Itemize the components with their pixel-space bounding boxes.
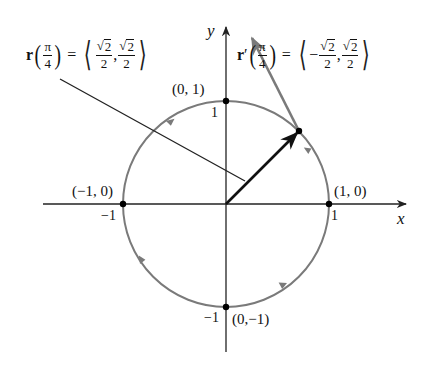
component-2: √2 2: [342, 39, 359, 70]
minus-sign: −: [309, 47, 318, 63]
paren-open: (: [249, 41, 256, 69]
point-north: [223, 98, 229, 104]
direction-arrow-icon: [304, 148, 312, 154]
position-vector-equation: r ( π 4 ) = ⟨ √2 2 , √2 2 ⟩: [26, 38, 149, 72]
point-east: [326, 201, 332, 207]
y-axis-label: y: [207, 22, 215, 39]
angle-bracket-close: ⟩: [139, 38, 147, 72]
y-tick-neg1: −1: [204, 311, 219, 325]
point-south: [223, 304, 229, 310]
leader-line: [60, 79, 245, 181]
function-r: r: [237, 47, 244, 63]
angle-bracket-open: ⟨: [299, 38, 307, 72]
component-1: √2 2: [96, 39, 113, 70]
x-tick-neg1: −1: [101, 209, 116, 223]
position-vector: [226, 133, 297, 204]
point-label-north: (0, 1): [172, 82, 205, 97]
x-tick-1: 1: [331, 209, 338, 223]
function-r: r: [26, 47, 33, 63]
paren-close: ): [269, 41, 276, 69]
angle-bracket-open: ⟨: [84, 38, 92, 72]
y-tick-1: 1: [211, 106, 218, 120]
component-1: √2 2: [319, 39, 336, 70]
argument-fraction: π 4: [43, 40, 52, 70]
point-label-west: (−1, 0): [72, 184, 113, 199]
x-axis-label: x: [397, 210, 405, 227]
point-west: [120, 201, 126, 207]
unit-circle-diagram: x y 1 −1 1 −1 (1, 0) (0, 1) (−1, 0) (0,−…: [0, 0, 433, 368]
paren-open: (: [35, 41, 42, 69]
point-label-east: (1, 0): [334, 184, 367, 199]
point-label-south: (0,−1): [232, 312, 269, 327]
point-pi-over-4: [296, 128, 302, 134]
component-2: √2 2: [118, 39, 135, 70]
paren-close: ): [54, 41, 61, 69]
angle-bracket-close: ⟩: [362, 38, 370, 72]
argument-fraction: π 4: [258, 40, 267, 70]
tangent-vector-equation: r ′ ( π 4 ) = ⟨ − √2 2 , √2 2 ⟩: [237, 38, 373, 72]
prime-mark: ′: [244, 47, 248, 63]
